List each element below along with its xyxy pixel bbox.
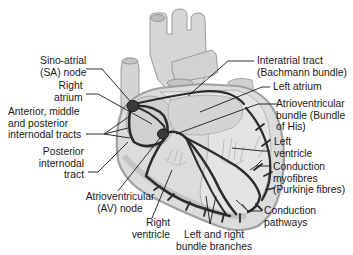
label-posterior-internodal: Posterior internodal tract — [38, 146, 84, 181]
label-internodal-line1: Anterior, middle — [8, 106, 81, 118]
label-his-line2: bundle (Bundle — [276, 110, 345, 122]
label-right-atrium: Right atrium — [54, 80, 83, 103]
label-right-ventricle-line2: ventricle — [126, 229, 170, 241]
label-av-node-line2: (AV) node — [80, 203, 160, 215]
label-interatrial-tract: Interatrial tract (Bachmann bundle) — [257, 55, 347, 78]
label-purkinje-line1: Conduction — [273, 161, 345, 173]
label-sa-node-line1: Sino-atrial — [40, 55, 86, 67]
label-right-atrium-line1: Right — [54, 80, 83, 92]
label-posterior-line3: tract — [38, 169, 84, 181]
label-bundle-branches-line2: bundle branches — [174, 241, 254, 253]
label-internodal-line3: internodal tracts — [8, 129, 81, 141]
label-av-node-line1: Atrioventricular — [80, 191, 160, 203]
label-pathways-line1: Conduction — [264, 205, 316, 217]
label-bundle-branches-line1: Left and right — [174, 229, 254, 241]
label-his-line3: of His) — [276, 121, 345, 133]
label-posterior-line1: Posterior — [38, 146, 84, 158]
label-sa-node: Sino-atrial (SA) node — [40, 55, 86, 78]
label-posterior-line2: internodal — [38, 158, 84, 170]
label-purkinje-line2: myofibres — [273, 173, 345, 185]
label-conduction-pathways: Conduction pathways — [264, 205, 316, 228]
label-sa-node-line2: (SA) node — [40, 67, 86, 79]
label-interatrial-line1: Interatrial tract — [257, 55, 347, 67]
label-bundle-branches: Left and right bundle branches — [174, 229, 254, 252]
label-his-line1: Atrioventricular — [276, 98, 345, 110]
label-right-ventricle: Right ventricle — [126, 217, 170, 240]
label-purkinje-line3: (Purkinje fibres) — [273, 184, 345, 196]
label-left-ventricle-line1: Left — [274, 136, 312, 148]
label-left-atrium-line1: Left atrium — [273, 81, 322, 93]
label-pathways-line2: pathways — [264, 217, 316, 229]
label-av-node: Atrioventricular (AV) node — [80, 191, 160, 214]
label-interatrial-line2: (Bachmann bundle) — [257, 67, 347, 79]
label-bundle-of-his: Atrioventricular bundle (Bundle of His) — [276, 98, 345, 133]
label-purkinje-fibres: Conduction myofibres (Purkinje fibres) — [273, 161, 345, 196]
heart-conduction-diagram: Sino-atrial (SA) node Right atrium Anter… — [0, 0, 353, 255]
label-internodal-line2: and posterior — [8, 118, 81, 130]
label-left-ventricle: Left ventricle — [274, 136, 312, 159]
label-right-atrium-line2: atrium — [54, 92, 83, 104]
label-right-ventricle-line1: Right — [126, 217, 170, 229]
label-internodal-tracts: Anterior, middle and posterior internoda… — [8, 106, 81, 141]
label-left-ventricle-line2: ventricle — [274, 148, 312, 160]
label-left-atrium: Left atrium — [273, 81, 322, 93]
